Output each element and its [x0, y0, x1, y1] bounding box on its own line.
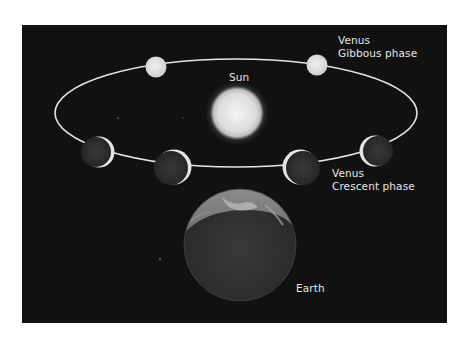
venus-gibbous-right — [307, 55, 328, 76]
earth — [180, 185, 300, 301]
earth-label: Earth — [296, 282, 325, 295]
star — [117, 117, 119, 119]
venus-gibbous-phase-label: Gibbous phase — [338, 47, 417, 60]
venus-crescent-title: Venus — [332, 167, 364, 180]
star — [182, 117, 183, 118]
sun-label: Sun — [229, 71, 249, 84]
venus-crescent-near-left — [154, 150, 192, 186]
venus-crescent-near-right — [283, 150, 321, 186]
sun — [205, 81, 269, 145]
star — [159, 258, 161, 260]
venus-crescent-phase-label: Crescent phase — [332, 180, 415, 193]
venus-crescent-far-right — [360, 136, 394, 167]
venus-gibbous-title: Venus — [338, 34, 370, 47]
venus-gibbous-left — [146, 57, 167, 78]
venus-crescent-far-left — [81, 137, 115, 168]
